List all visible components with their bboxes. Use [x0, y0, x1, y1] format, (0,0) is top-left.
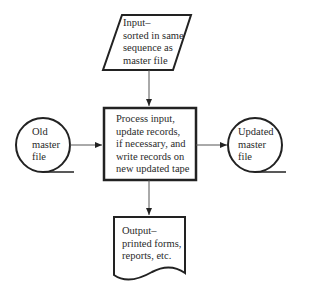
process-line-4: write records on: [116, 151, 189, 164]
input-line-3: sequence as: [123, 42, 184, 55]
updated-master-line-1: Updated: [238, 126, 274, 139]
process-line-5: new updated tape: [116, 163, 189, 176]
output-line-3: reports, etc.: [122, 250, 182, 263]
input-line-1: Input–: [123, 17, 184, 30]
updated-master-line-3: file: [238, 151, 274, 164]
process-line-3: if necessary, and: [116, 138, 189, 151]
old-master-label: Old master file: [32, 126, 60, 164]
output-label: Output– printed forms, reports, etc.: [122, 225, 182, 263]
process-label: Process input, update records, if necess…: [116, 113, 189, 176]
output-line-1: Output–: [122, 225, 182, 238]
updated-master-line-2: master: [238, 139, 274, 152]
old-master-line-3: file: [32, 151, 60, 164]
input-label: Input– sorted in same sequence as master…: [123, 17, 184, 67]
input-line-4: master file: [123, 55, 184, 68]
process-line-2: update records,: [116, 126, 189, 139]
old-master-line-1: Old: [32, 126, 60, 139]
output-line-2: printed forms,: [122, 238, 182, 251]
process-line-1: Process input,: [116, 113, 189, 126]
old-master-line-2: master: [32, 139, 60, 152]
updated-master-label: Updated master file: [238, 126, 274, 164]
input-line-2: sorted in same: [123, 30, 184, 43]
